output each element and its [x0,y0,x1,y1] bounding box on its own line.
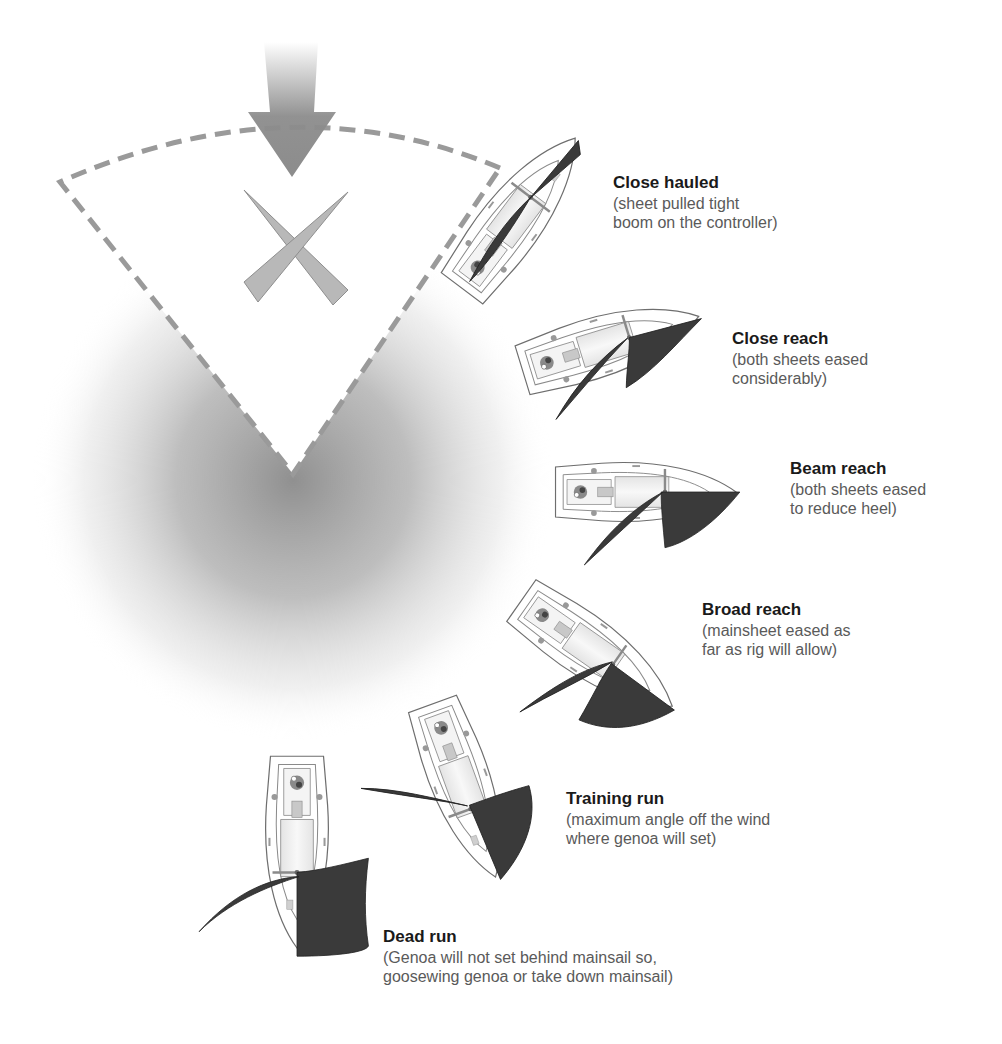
label-training-run: Training run (maximum angle off the wind… [566,788,770,848]
point-description: (mainsheet eased as far as rig will allo… [702,621,851,659]
point-title: Training run [566,788,770,810]
point-description: (sheet pulled tight boom on the controll… [613,194,778,232]
label-beam-reach: Beam reach (both sheets eased to reduce … [790,458,926,518]
point-title: Beam reach [790,458,926,480]
label-dead-run: Dead run (Genoa will not set behind main… [383,926,673,986]
point-title: Close hauled [613,172,778,194]
label-close-hauled: Close hauled (sheet pulled tight boom on… [613,172,778,232]
point-title: Broad reach [702,599,851,621]
point-description: (Genoa will not set behind mainsail so, … [383,948,673,986]
diagram-canvas [0,0,1002,1044]
point-description: (maximum angle off the wind where genoa … [566,810,770,848]
point-description: (both sheets eased considerably) [732,350,868,388]
label-close-reach: Close reach (both sheets eased considera… [732,328,868,388]
sailable-region-shading [0,0,1002,1044]
point-description: (both sheets eased to reduce heel) [790,480,926,518]
label-broad-reach: Broad reach (mainsheet eased as far as r… [702,599,851,659]
point-title: Close reach [732,328,868,350]
point-title: Dead run [383,926,673,948]
points-of-sail-diagram: Close hauled (sheet pulled tight boom on… [0,0,1002,1044]
